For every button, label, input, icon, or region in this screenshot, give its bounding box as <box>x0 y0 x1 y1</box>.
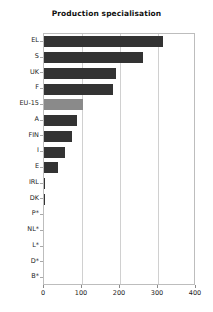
bar-irl[interactable] <box>44 178 45 189</box>
category-label-uk: UK <box>1 65 39 81</box>
category-label-e: E <box>1 159 39 175</box>
category-label-f: F <box>1 80 39 96</box>
y-tick-mark <box>40 214 43 215</box>
category-label-dk: DK <box>1 191 39 207</box>
bar-row <box>44 223 194 239</box>
bar-row <box>44 81 194 97</box>
bar-fin[interactable] <box>44 131 72 142</box>
bar-dk[interactable] <box>44 194 45 205</box>
y-tick-mark <box>40 277 43 278</box>
y-tick-mark <box>40 261 43 262</box>
category-label-nlstar: NL* <box>1 222 39 238</box>
bar-row <box>44 176 194 192</box>
bar-e[interactable] <box>44 162 58 173</box>
x-tick-label: 300 <box>144 289 170 297</box>
bar-el[interactable] <box>44 36 163 47</box>
category-label-lstar: L* <box>1 238 39 254</box>
y-tick-mark <box>40 135 43 136</box>
bar-row <box>44 113 194 129</box>
category-label-fin: FIN <box>1 128 39 144</box>
y-tick-mark <box>40 88 43 89</box>
y-tick-mark <box>40 151 43 152</box>
category-label-irl: IRL <box>1 175 39 191</box>
bar-uk[interactable] <box>44 68 116 79</box>
y-tick-mark <box>40 167 43 168</box>
bar-row <box>44 239 194 255</box>
production-specialisation-chart: Production specialisation ELSUKFEU-15AFI… <box>0 0 213 312</box>
y-tick-mark <box>40 104 43 105</box>
bar-row <box>44 160 194 176</box>
bar-row <box>44 50 194 66</box>
y-tick-mark <box>40 246 43 247</box>
bars-layer <box>44 34 194 284</box>
bar-eu-15[interactable] <box>44 99 83 110</box>
y-tick-mark <box>40 120 43 121</box>
bar-row <box>44 255 194 271</box>
x-tick-label: 100 <box>68 289 94 297</box>
bar-i[interactable] <box>44 147 65 158</box>
y-tick-mark <box>40 183 43 184</box>
category-label-i: I <box>1 143 39 159</box>
y-tick-mark <box>40 41 43 42</box>
x-tick-label: 400 <box>182 289 208 297</box>
bar-row <box>44 207 194 223</box>
y-tick-mark <box>40 198 43 199</box>
y-tick-mark <box>40 57 43 58</box>
bar-row <box>44 97 194 113</box>
category-label-bstar: B* <box>1 269 39 285</box>
category-label-el: EL <box>1 33 39 49</box>
bar-row <box>44 34 194 50</box>
x-tick-mark-400 <box>195 285 196 288</box>
category-label-a: A <box>1 112 39 128</box>
bar-s[interactable] <box>44 52 143 63</box>
x-tick-label: 0 <box>30 289 56 297</box>
bar-f[interactable] <box>44 84 113 95</box>
x-tick-mark-100 <box>81 285 82 288</box>
plot-area <box>43 33 195 285</box>
category-label-dstar: D* <box>1 254 39 270</box>
x-tick-mark-200 <box>119 285 120 288</box>
category-label-eu-15: EU-15 <box>1 96 39 112</box>
bar-row <box>44 144 194 160</box>
chart-title: Production specialisation <box>0 9 213 18</box>
x-tick-label: 200 <box>106 289 132 297</box>
category-label-pstar: P* <box>1 206 39 222</box>
x-tick-mark-0 <box>43 285 44 288</box>
category-label-s: S <box>1 49 39 65</box>
x-tick-mark-300 <box>157 285 158 288</box>
bar-row <box>44 192 194 208</box>
bar-row <box>44 129 194 145</box>
bar-row <box>44 66 194 82</box>
y-tick-mark <box>40 72 43 73</box>
y-tick-mark <box>40 230 43 231</box>
bar-a[interactable] <box>44 115 77 126</box>
bar-row <box>44 270 194 286</box>
